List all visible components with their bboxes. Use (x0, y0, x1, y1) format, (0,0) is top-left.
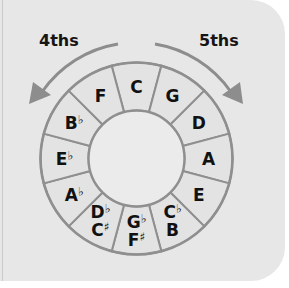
note-label: E (193, 185, 205, 205)
note-label: C (130, 77, 142, 97)
note-label: D (192, 113, 206, 133)
note-label: G (166, 86, 180, 106)
note-label: A (202, 149, 216, 169)
circle-of-fifths: 4ths 5ths CGDAEC♭BG♭F♯D♭C♯A♭E♭B♭F (0, 0, 289, 288)
note-label: C♭B (163, 202, 181, 240)
note-label: F (95, 86, 107, 106)
fourths-label: 4ths (39, 31, 79, 50)
center-circle (89, 111, 185, 207)
fifths-label: 5ths (199, 31, 239, 50)
